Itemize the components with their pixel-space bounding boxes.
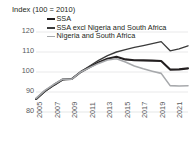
x-tick-label: 2007: [54, 102, 61, 118]
line-chart: Index (100 = 2010) SSA SSA excl Nigeria …: [0, 0, 190, 153]
x-tick-label: 2021: [176, 102, 183, 118]
line-swatch-dark-thin-icon: [47, 27, 55, 29]
x-tick-label: 2019: [159, 102, 166, 118]
x-tick-label: 2015: [124, 102, 131, 118]
chart-legend: SSA SSA excl Nigeria and South Africa Ni…: [47, 15, 166, 41]
x-tick-label: 2013: [106, 102, 113, 118]
line-swatch-black-thick-icon: [47, 18, 55, 20]
line-swatch-gray-icon: [47, 36, 55, 38]
x-tick-label: 2009: [71, 102, 78, 118]
x-tick-label: 2011: [89, 102, 96, 118]
x-tick-label: 2017: [141, 102, 148, 118]
legend-item-label: Nigeria and South Africa: [57, 32, 136, 41]
x-tick-label: 2005: [36, 102, 43, 118]
legend-item-nigeria-south-africa[interactable]: Nigeria and South Africa: [47, 32, 166, 41]
